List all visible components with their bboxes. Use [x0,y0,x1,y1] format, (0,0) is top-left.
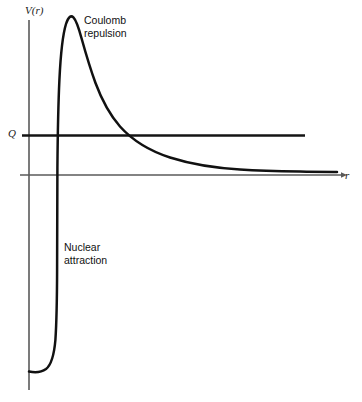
annotation-nuclear-line1: Nuclear [64,241,107,254]
annotation-nuclear-attraction: Nuclear attraction [64,241,107,266]
annotation-coulomb-repulsion: Coulomb repulsion [84,14,127,39]
x-axis-label: r [345,170,349,181]
energy-level-q-label: Q [8,128,16,139]
potential-curve [29,16,337,372]
annotation-coulomb-line2: repulsion [84,27,127,40]
annotation-coulomb-line1: Coulomb [84,14,127,27]
annotation-nuclear-line2: attraction [64,254,107,267]
plot-area [0,0,362,402]
potential-energy-diagram: V(r) r Q Coulomb repulsion Nuclear attra… [0,0,362,402]
y-axis-label: V(r) [25,5,43,16]
